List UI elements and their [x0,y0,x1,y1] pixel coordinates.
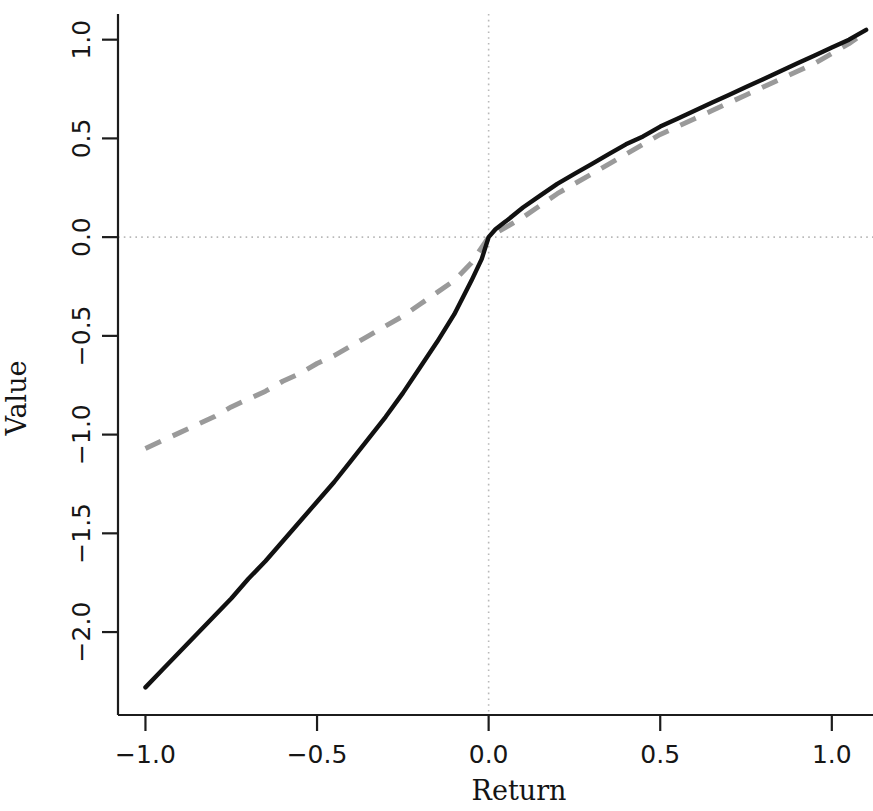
x-tick-label: 1.0 [812,740,852,769]
y-tick-label: 1.0 [68,20,97,60]
series-value-function-loss-averse [145,30,866,688]
y-tick-label: −0.5 [68,306,97,367]
y-axis-ticks: −2.0−1.5−1.0−0.50.00.51.0 [68,20,119,663]
series-group [145,30,866,688]
y-tick-label: −1.0 [68,404,97,465]
x-tick-label: −0.5 [287,740,348,769]
zero-reference-lines [118,14,873,715]
axis-lines [118,14,873,715]
value-function-plot: −1.0−0.50.00.51.0 −2.0−1.5−1.0−0.50.00.5… [0,0,873,811]
y-tick-label: −1.5 [68,503,97,564]
x-axis-ticks: −1.0−0.50.00.51.0 [115,715,852,769]
y-tick-label: −2.0 [68,602,97,663]
y-tick-label: 0.0 [68,217,97,257]
y-tick-label: 0.5 [68,119,97,159]
x-axis-title: Return [472,775,567,806]
x-tick-label: 0.5 [640,740,680,769]
x-tick-label: 0.0 [469,740,509,769]
y-axis-title: Value [1,360,32,436]
series-value-function-reference [145,32,866,449]
x-tick-label: −1.0 [115,740,176,769]
chart-figure: −1.0−0.50.00.51.0 −2.0−1.5−1.0−0.50.00.5… [0,0,873,811]
